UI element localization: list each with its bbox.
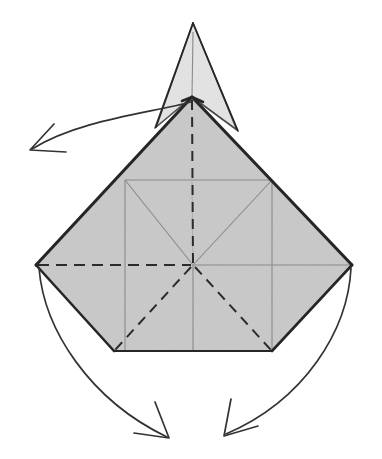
origami-diagram-figure xyxy=(0,0,382,459)
origami-canvas xyxy=(0,0,382,459)
